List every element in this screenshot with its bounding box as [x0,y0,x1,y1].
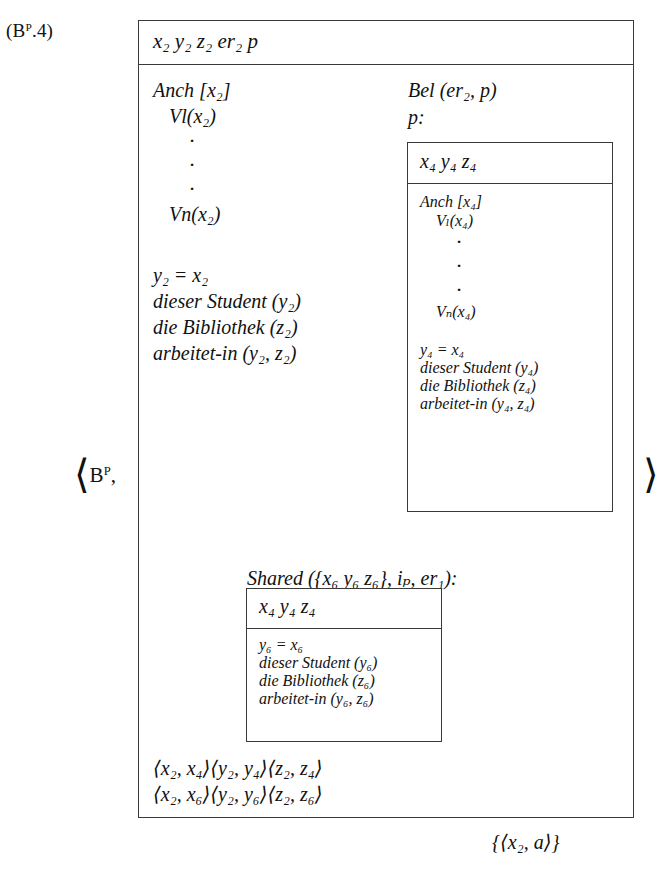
main-condition-list: y₂ = x₂ dieser Student (y₂) die Biblioth… [153,262,301,366]
main-drs-universe: x₂ y₂ z₂ er₂ p [139,21,633,65]
belief-proposition-label: p: [408,104,425,130]
belief-anchor-header: Anch [x₄] [420,193,612,211]
shared-condition-3: arbeitet-in (y₆, z₆) [259,690,441,708]
main-anchor-ellipsis: · · · [153,129,231,201]
shared-drs-box: x₄ y₄ z₄ y₆ = x₆ dieser Student (y₆) die… [246,588,442,742]
main-condition-3: arbeitet-in (y₂, z₂) [153,340,301,366]
drs-figure: (BP.4) ⟨BP, ⟩ x₂ y₂ z₂ er₂ p Anch [x₂] V… [0,0,667,878]
belief-condition-list: y₄ = x₄ dieser Student (y₄) die Biblioth… [420,321,612,413]
belief-anchor-dot-2: · [456,254,612,278]
equation-label: (BP.4) [6,20,53,42]
main-anchor-first-condition: Vl(x₂) [153,103,231,129]
external-anchor-set: {⟨x₂, a⟩} [492,830,559,854]
right-angle-bracket: ⟩ [643,455,659,495]
main-anchor-dot-2: · [189,153,231,177]
left-bracket-label-base: B [90,463,104,487]
shared-condition-1: dieser Student (y₆) [259,654,441,672]
shared-condition-2: die Bibliothek (z₆) [259,672,441,690]
belief-condition-3: arbeitet-in (y₄, z₄) [420,395,612,413]
equation-label-base: (B [6,20,25,41]
belief-condition-0: y₄ = x₄ [420,341,612,359]
shared-drs-universe: x₄ y₄ z₄ [247,589,441,629]
belief-anchor-last-condition: Vₙ(x₄) [420,302,612,321]
belief-condition-2: die Bibliothek (z₄) [420,377,612,395]
belief-anchor-block: Anch [x₄] Vₗ(x₄) · · · Vₙ(x₄) [420,193,612,321]
main-anchor-dot-1: · [189,129,231,153]
belief-drs-box: x₄ y₄ z₄ Anch [x₄] Vₗ(x₄) · · · Vₙ(x₄) y… [407,142,613,512]
link-pair-row-0: ⟨x₂, x₄⟩⟨y₂, y₄⟩⟨z₂, z₄⟩ [153,755,323,781]
equation-label-tail: .4) [32,20,53,41]
belief-anchor-dot-3: · [456,278,612,302]
belief-anchor-first-condition: Vₗ(x₄) [420,211,612,230]
main-condition-0: y₂ = x₂ [153,262,301,288]
belief-anchor-ellipsis: · · · [420,230,612,302]
belief-condition-1: dieser Student (y₄) [420,359,612,377]
left-angle-bracket-group: ⟨BP, [74,455,116,495]
main-anchor-last-condition: Vn(x₂) [153,201,231,227]
main-anchor-dot-3: · [189,177,231,201]
left-angle-bracket: ⟨ [74,452,90,497]
left-bracket-label-comma: , [111,463,116,487]
left-bracket-label-superscript: P [104,464,111,478]
main-condition-1: dieser Student (y₂) [153,288,301,314]
equation-label-superscript: P [25,21,32,33]
link-pair-row-1: ⟨x₂, x₆⟩⟨y₂, y₆⟩⟨z₂, z₆⟩ [153,781,323,807]
belief-anchor-dot-1: · [456,230,612,254]
shared-condition-0: y₆ = x₆ [259,636,441,654]
link-pair-list: ⟨x₂, x₄⟩⟨y₂, y₄⟩⟨z₂, z₄⟩ ⟨x₂, x₆⟩⟨y₂, y₆… [153,755,323,807]
main-anchor-header: Anch [x₂] [153,77,231,103]
main-anchor-block: Anch [x₂] Vl(x₂) · · · Vn(x₂) [153,77,231,227]
belief-drs-conditions: Anch [x₄] Vₗ(x₄) · · · Vₙ(x₄) y₄ = x₄ di… [408,184,612,511]
left-bracket-label: BP, [90,463,116,487]
shared-drs-conditions: y₆ = x₆ dieser Student (y₆) die Biblioth… [247,629,441,743]
main-condition-2: die Bibliothek (z₂) [153,314,301,340]
belief-condition-label: Bel (er₂, p) [408,77,497,103]
belief-drs-universe: x₄ y₄ z₄ [408,143,612,184]
